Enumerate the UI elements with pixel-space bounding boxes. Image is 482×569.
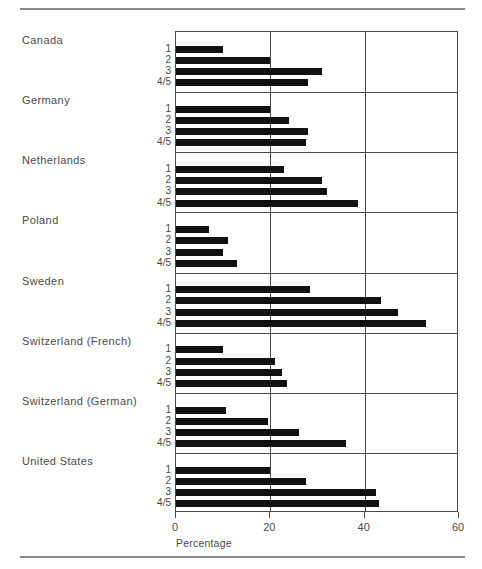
bar-row [176, 500, 457, 507]
category-tick-label: 3 [145, 487, 171, 497]
bar-row [176, 478, 457, 485]
category-tick-label: 3 [145, 126, 171, 136]
bar-row [176, 226, 457, 233]
category-tick-label: 4/5 [145, 438, 171, 448]
country-label-switzerland-german: Switzerland (German) [22, 395, 137, 407]
category-tick-label: 4/5 [145, 378, 171, 388]
bar-canada-1 [176, 46, 223, 53]
bar-switzerland-german-1 [176, 407, 226, 414]
bar-row [176, 346, 457, 353]
category-tick-label: 2 [145, 175, 171, 185]
bar-row [176, 68, 457, 75]
bar-germany-2 [176, 117, 289, 124]
category-tick-label: 2 [145, 115, 171, 125]
bar-switzerland-french-2 [176, 358, 275, 365]
category-tick-label: 3 [145, 367, 171, 377]
category-tick-label: 2 [145, 416, 171, 426]
bar-poland-1 [176, 226, 209, 233]
plot-area [175, 31, 458, 512]
category-tick-label: 4/5 [145, 137, 171, 147]
group-separator [176, 393, 457, 394]
bar-row [176, 260, 457, 267]
bar-row [176, 237, 457, 244]
country-label-switzerland-french: Switzerland (French) [22, 335, 131, 347]
bar-row [176, 200, 457, 207]
bar-chart-figure: 0204060Canada1234/5Germany1234/5Netherla… [0, 0, 482, 569]
bar-united-states-3 [176, 489, 376, 496]
bar-row [176, 418, 457, 425]
category-tick-label: 1 [145, 284, 171, 294]
category-tick-label: 2 [145, 295, 171, 305]
bar-united-states-2 [176, 478, 306, 485]
group-separator [176, 453, 457, 454]
country-label-poland: Poland [22, 214, 59, 226]
bar-row [176, 467, 457, 474]
bar-netherlands-2 [176, 177, 322, 184]
bar-row [176, 166, 457, 173]
bar-row [176, 407, 457, 414]
bar-sweden-4-5 [176, 320, 426, 327]
x-axis-title: Percentage [176, 537, 232, 549]
group-separator [176, 333, 457, 334]
category-tick-label: 1 [145, 344, 171, 354]
country-label-canada: Canada [22, 34, 63, 46]
category-tick-label: 2 [145, 55, 171, 65]
bar-row [176, 117, 457, 124]
bar-row [176, 128, 457, 135]
bar-row [176, 429, 457, 436]
category-tick-label: 3 [145, 307, 171, 317]
bar-row [176, 46, 457, 53]
bar-netherlands-1 [176, 166, 284, 173]
category-tick-label: 1 [145, 164, 171, 174]
bar-row [176, 188, 457, 195]
bar-switzerland-german-2 [176, 418, 268, 425]
bar-row [176, 297, 457, 304]
bar-row [176, 309, 457, 316]
bar-row [176, 249, 457, 256]
category-tick-label: 1 [145, 104, 171, 114]
bar-united-states-4-5 [176, 500, 379, 507]
group-separator [176, 212, 457, 213]
category-tick-label: 3 [145, 66, 171, 76]
bar-sweden-1 [176, 286, 310, 293]
bar-canada-3 [176, 68, 322, 75]
category-tick-label: 2 [145, 476, 171, 486]
group-separator [176, 273, 457, 274]
bar-netherlands-3 [176, 188, 327, 195]
category-tick-label: 1 [145, 44, 171, 54]
category-tick-label: 2 [145, 235, 171, 245]
bar-row [176, 106, 457, 113]
x-tick-label-40: 40 [344, 521, 384, 533]
country-label-sweden: Sweden [22, 275, 64, 287]
x-tick-label-60: 60 [438, 521, 478, 533]
bar-sweden-3 [176, 309, 398, 316]
bar-row [176, 286, 457, 293]
bar-germany-4-5 [176, 139, 306, 146]
country-label-germany: Germany [22, 94, 70, 106]
bar-united-states-1 [176, 467, 270, 474]
category-tick-label: 4/5 [145, 498, 171, 508]
category-tick-label: 2 [145, 356, 171, 366]
category-tick-label: 3 [145, 427, 171, 437]
group-separator [176, 92, 457, 93]
bar-poland-4-5 [176, 260, 237, 267]
bar-switzerland-german-4-5 [176, 440, 346, 447]
bar-sweden-2 [176, 297, 381, 304]
bar-row [176, 369, 457, 376]
bar-row [176, 440, 457, 447]
category-tick-label: 4/5 [145, 198, 171, 208]
category-tick-label: 1 [145, 405, 171, 415]
bar-switzerland-french-4-5 [176, 380, 287, 387]
bar-switzerland-german-3 [176, 429, 299, 436]
x-tick-label-20: 20 [249, 521, 289, 533]
bar-row [176, 139, 457, 146]
bar-netherlands-4-5 [176, 200, 358, 207]
bar-poland-2 [176, 237, 228, 244]
country-label-united-states: United States [22, 455, 93, 467]
bar-row [176, 57, 457, 64]
country-label-netherlands: Netherlands [22, 154, 86, 166]
bar-row [176, 320, 457, 327]
bar-row [176, 489, 457, 496]
bar-switzerland-french-1 [176, 346, 223, 353]
category-tick-label: 4/5 [145, 77, 171, 87]
